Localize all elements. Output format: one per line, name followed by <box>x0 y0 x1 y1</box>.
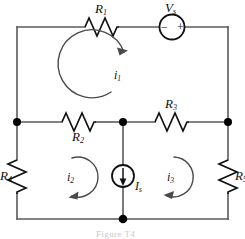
node-middle-right-dot <box>224 118 232 126</box>
voltage-source-minus-sign: − <box>161 21 168 33</box>
resistor-r1-label: R1 <box>95 2 107 15</box>
resistor-r3-zigzag <box>155 113 189 131</box>
mesh-current-i2-arc <box>72 157 98 197</box>
circuit-schematic-svg <box>0 0 245 239</box>
mesh-current-i1-label: i1 <box>114 69 121 81</box>
mesh-current-i3-arrowhead <box>164 191 175 199</box>
node-middle-center-dot <box>119 118 127 126</box>
resistor-r3-label: R3 <box>165 97 177 110</box>
circuit-diagram: R1 R2 R3 R4 R5 Vs − + Is i1 i2 i3 Figure… <box>0 0 245 239</box>
voltage-source-label: Vs <box>165 1 176 14</box>
mesh-current-i1-arc <box>58 30 124 98</box>
resistor-r2-label: R2 <box>72 130 84 143</box>
mesh-current-i2-label: i2 <box>67 171 74 183</box>
current-source-label: Is <box>135 180 142 192</box>
node-middle-left-dot <box>13 118 21 126</box>
mesh-current-i2-arrowhead <box>69 192 79 200</box>
resistor-r4-label: R4 <box>0 169 12 182</box>
mesh-current-i3-label: i3 <box>167 171 174 183</box>
resistor-r1-zigzag <box>85 18 119 36</box>
resistor-r5-label: R5 <box>235 169 245 182</box>
figure-caption: Figure T4 <box>96 229 135 239</box>
voltage-source-plus-sign: + <box>177 21 184 33</box>
node-bottom-center-dot <box>119 215 128 224</box>
